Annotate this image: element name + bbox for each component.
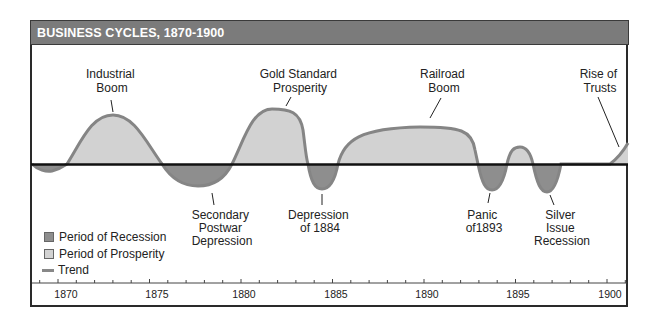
tick-label-1880: 1880 <box>232 288 256 300</box>
x-axis-labels: 1870 1875 1880 1885 1890 1895 1900 <box>54 288 622 300</box>
legend-item-prosperity: Period of Prosperity <box>44 246 166 263</box>
prosperity-area <box>67 109 628 164</box>
annotation-secondary-postwar-depression: Secondary Postwar Depression <box>192 208 253 248</box>
legend-item-trend: Trend <box>44 262 166 279</box>
legend: Period of Recession Period of Prosperity… <box>44 229 166 279</box>
annotation-gold-standard-prosperity: Gold Standard Prosperity <box>260 67 341 95</box>
legend-item-recession: Period of Recession <box>44 229 166 246</box>
legend-label-trend: Trend <box>58 263 89 277</box>
trend-line-icon <box>42 269 54 272</box>
tick-label-1875: 1875 <box>145 288 169 300</box>
annotation-panic-1893: Panic of1893 <box>466 208 503 235</box>
tick-label-1870: 1870 <box>54 288 78 300</box>
recession-swatch-icon <box>44 232 54 242</box>
legend-label-prosperity: Period of Prosperity <box>59 247 164 261</box>
tick-label-1900: 1900 <box>598 288 622 300</box>
x-axis-ticks <box>40 279 626 283</box>
annotation-silver-issue-recession: Silver Issue Recession <box>534 208 590 248</box>
annotation-railroad-boom: Railroad Boom <box>420 67 468 95</box>
tick-label-1895: 1895 <box>506 288 530 300</box>
tick-label-1885: 1885 <box>324 288 348 300</box>
prosperity-swatch-icon <box>44 249 54 259</box>
legend-label-recession: Period of Recession <box>59 230 166 244</box>
annotation-depression-1884: Depression of 1884 <box>288 208 352 235</box>
annotation-rise-of-trusts: Rise of Trusts <box>580 67 621 95</box>
tick-label-1890: 1890 <box>415 288 439 300</box>
annotation-industrial-boom: Industrial Boom <box>86 67 138 95</box>
